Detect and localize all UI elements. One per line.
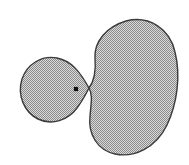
figure-canvas xyxy=(0,0,189,165)
interior-point-marker[interactable] xyxy=(74,87,78,91)
blob-diagram-svg xyxy=(0,0,189,165)
